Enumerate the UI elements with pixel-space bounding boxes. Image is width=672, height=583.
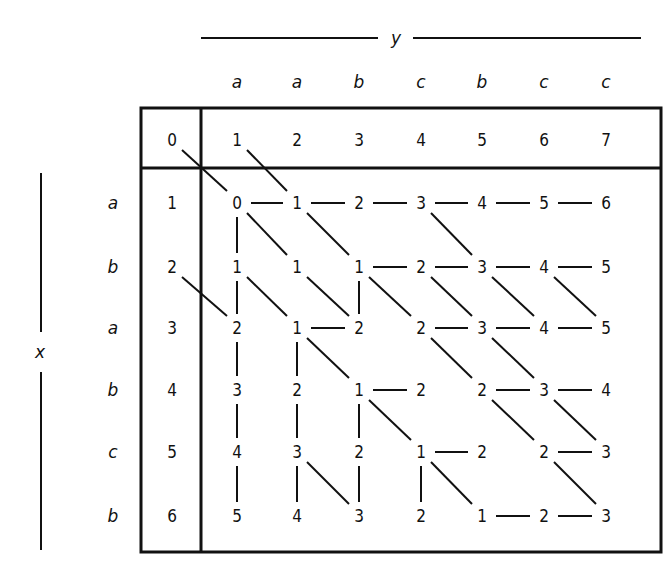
matrix-cell: 0 — [232, 195, 242, 212]
header-cell: 2 — [292, 132, 302, 149]
edge-diagonal-index — [182, 277, 227, 316]
matrix-cell: 5 — [601, 259, 611, 276]
edge-diagonal — [247, 277, 287, 316]
matrix-cell: 2 — [416, 320, 426, 337]
matrix-cell: 3 — [416, 195, 426, 212]
header-cell: 6 — [539, 132, 549, 149]
matrix-cell: 3 — [477, 259, 487, 276]
y-sequence-letter: c — [416, 74, 425, 91]
matrix-cell: 2 — [539, 508, 549, 525]
y-sequence-letter: c — [539, 74, 548, 91]
matrix-cell: 4 — [232, 444, 242, 461]
y-axis-label: y — [391, 30, 401, 47]
edge-diagonal — [369, 277, 411, 316]
matrix-cell: 6 — [601, 195, 611, 212]
matrix-cell: 2 — [354, 195, 364, 212]
matrix-cell: 3 — [354, 508, 364, 525]
x-sequence-letter: b — [108, 508, 119, 525]
matrix-cell: 3 — [539, 382, 549, 399]
matrix-cell: 5 — [601, 320, 611, 337]
matrix-cell: 2 — [416, 508, 426, 525]
header-cell: 1 — [232, 132, 242, 149]
matrix-cell: 2 — [477, 444, 487, 461]
index-cell: 4 — [167, 382, 177, 399]
edge-diagonal — [369, 400, 411, 440]
matrix-cell: 5 — [539, 195, 549, 212]
matrix-cell: 1 — [477, 508, 487, 525]
matrix-cell: 4 — [477, 195, 487, 212]
edge-diagonal — [247, 213, 287, 255]
y-sequence-letter: a — [292, 74, 302, 91]
matrix-cell: 2 — [354, 444, 364, 461]
edge-diagonal — [492, 277, 534, 316]
index-cell: 5 — [167, 444, 177, 461]
edge-diagonal — [554, 462, 596, 504]
matrix-cell: 2 — [354, 320, 364, 337]
matrix-cell: 4 — [601, 382, 611, 399]
y-sequence-letter: c — [601, 74, 610, 91]
matrix-cell: 3 — [477, 320, 487, 337]
index-cell: 2 — [167, 259, 177, 276]
x-sequence-letter: a — [108, 320, 118, 337]
x-sequence-letter: a — [108, 195, 118, 212]
matrix-cell: 1 — [416, 444, 426, 461]
matrix-cell: 3 — [601, 508, 611, 525]
edge-diagonal — [431, 462, 472, 504]
matrix-cell: 1 — [354, 382, 364, 399]
matrix-cell: 2 — [477, 382, 487, 399]
x-sequence-letter: b — [108, 382, 119, 399]
matrix-cell: 2 — [232, 320, 242, 337]
y-sequence-letter: a — [232, 74, 242, 91]
header-cell: 7 — [601, 132, 611, 149]
header-cell: 3 — [354, 132, 364, 149]
index-cell: 1 — [167, 195, 177, 212]
edge-diagonal — [307, 462, 349, 504]
edge-diagonal — [554, 400, 596, 440]
matrix-cell: 3 — [601, 444, 611, 461]
matrix-cell: 1 — [232, 259, 242, 276]
edge-diagonal — [307, 338, 349, 378]
matrix-cell: 4 — [539, 259, 549, 276]
matrix-cell: 1 — [292, 195, 302, 212]
edge-diagonal — [492, 338, 534, 378]
x-axis-label: x — [35, 344, 45, 361]
diagram-lines — [0, 0, 672, 583]
matrix-cell: 1 — [292, 259, 302, 276]
header-cell: 0 — [167, 132, 177, 149]
index-cell: 6 — [167, 508, 177, 525]
matrix-cell: 3 — [292, 444, 302, 461]
matrix-cell: 3 — [232, 382, 242, 399]
edge-diagonal-header — [247, 150, 287, 191]
edit-distance-diagram: y aabcbcc x ababcb 01234567 123456 01234… — [0, 0, 672, 583]
matrix-cell: 5 — [232, 508, 242, 525]
y-sequence-letter: b — [477, 74, 488, 91]
edge-diagonal — [431, 213, 472, 255]
x-sequence-letter: c — [108, 444, 117, 461]
y-sequence-letter: b — [354, 74, 365, 91]
edge-diagonal — [307, 213, 349, 255]
matrix-cell: 2 — [416, 382, 426, 399]
matrix-cell: 2 — [416, 259, 426, 276]
edge-diagonal-header — [182, 150, 227, 191]
edge-diagonal — [307, 277, 349, 316]
edge-diagonal — [492, 400, 534, 440]
index-cell: 3 — [167, 320, 177, 337]
edge-diagonal — [431, 338, 472, 378]
matrix-frame — [141, 108, 661, 552]
matrix-cell: 1 — [354, 259, 364, 276]
header-cell: 5 — [477, 132, 487, 149]
matrix-cell: 4 — [539, 320, 549, 337]
matrix-cell: 4 — [292, 508, 302, 525]
x-sequence-letter: b — [108, 259, 119, 276]
edge-diagonal — [554, 277, 596, 316]
matrix-cell: 2 — [539, 444, 549, 461]
edge-diagonal — [431, 277, 472, 316]
matrix-cell: 1 — [292, 320, 302, 337]
matrix-cell: 2 — [292, 382, 302, 399]
header-cell: 4 — [416, 132, 426, 149]
